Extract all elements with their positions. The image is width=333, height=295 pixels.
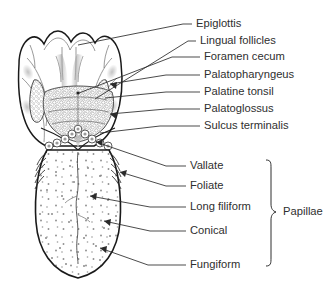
label-sulcus-terminalis: Sulcus terminalis [204,119,289,131]
label-palatine-tonsil: Palatine tonsil [204,85,274,97]
label-lingual-follicles: Lingual follicles [200,34,276,46]
label-foramen-cecum: Foramen cecum [204,50,285,62]
label-fungiform: Fungiform [190,258,240,270]
label-palatopharyngeus: Palatopharyngeus [204,68,295,80]
tongue-body [35,150,121,278]
label-foliate: Foliate [190,179,224,191]
label-papillae: Papillae [283,205,323,217]
label-epiglottis: Epiglottis [196,17,242,29]
label-palatoglossus: Palatoglossus [204,102,274,114]
label-long-filiform: Long filiform [190,200,251,212]
tongue-anatomy-diagram: Epiglottis Lingual follicles Foramen cec… [0,0,333,295]
label-conical: Conical [190,224,227,236]
label-vallate: Vallate [190,159,223,171]
